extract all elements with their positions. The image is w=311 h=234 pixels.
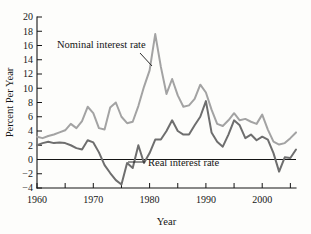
- y-axis-tick-label: 12: [23, 68, 33, 79]
- chart-canvas: −4−202468101214161820 196019701980199020…: [0, 0, 311, 234]
- x-axis-tick-label: 1990: [196, 194, 216, 205]
- y-axis-tick-label: 8: [28, 97, 33, 108]
- y-axis-tick-label: −2: [22, 168, 33, 179]
- y-axis-tick-label: 16: [23, 40, 33, 51]
- x-axis-title: Year: [157, 216, 177, 227]
- x-axis-tick-label: 2000: [252, 194, 272, 205]
- y-axis-tick-label: 2: [28, 140, 33, 151]
- nominal-series-annotation-label: Nominal interest rate: [57, 39, 146, 50]
- x-axis-tick-label: 1970: [83, 194, 103, 205]
- x-axis-tick-label: 1980: [140, 194, 160, 205]
- y-axis-tick-label: −4: [22, 182, 33, 193]
- y-axis-tick-label: 20: [23, 11, 33, 22]
- x-axis-tick-label: 1960: [27, 194, 47, 205]
- y-axis-tick-label: 18: [23, 26, 33, 37]
- y-axis-tick-label: 0: [28, 154, 33, 165]
- y-axis-tick-label: 10: [23, 83, 33, 94]
- y-axis-tick-label: 14: [23, 54, 33, 65]
- interest-rate-chart-figure: −4−202468101214161820 196019701980199020…: [0, 0, 311, 234]
- real-series-annotation-label: Real interest rate: [148, 157, 219, 168]
- y-axis-tick-label: 4: [28, 125, 33, 136]
- y-axis-tick-label: 6: [28, 111, 33, 122]
- y-axis-title: Percent Per Year: [4, 67, 15, 137]
